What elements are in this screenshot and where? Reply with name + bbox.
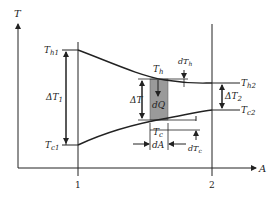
delta-t1-label: ΔT1 xyxy=(45,92,63,104)
dtc-label: dTc xyxy=(188,144,202,154)
dq-label: dQ xyxy=(152,100,166,110)
dth-label: dTh xyxy=(178,57,192,67)
x-tick-1: 1 xyxy=(75,180,81,190)
th2-label: Th2 xyxy=(241,78,257,90)
delta-t2-label: ΔT2 xyxy=(224,91,243,103)
t-axis-label: T xyxy=(14,8,22,19)
tc-label: Tc xyxy=(153,127,163,139)
delta-t-label: ΔT xyxy=(129,95,143,105)
a-axis-label: A xyxy=(258,163,266,174)
th1-label: Th1 xyxy=(44,45,59,57)
x-tick-2: 2 xyxy=(209,180,215,190)
cold-fluid-curve xyxy=(78,110,212,145)
tc1-label: Tc1 xyxy=(45,140,59,152)
th-label: Th xyxy=(153,64,164,76)
heat-exchanger-diagram: T A 1 2 Th1 Tc1 ΔT1 Th2 Tc2 ΔT2 ΔT dQ Th… xyxy=(0,0,277,197)
tc2-label: Tc2 xyxy=(241,105,256,117)
da-label: dA xyxy=(152,140,165,150)
